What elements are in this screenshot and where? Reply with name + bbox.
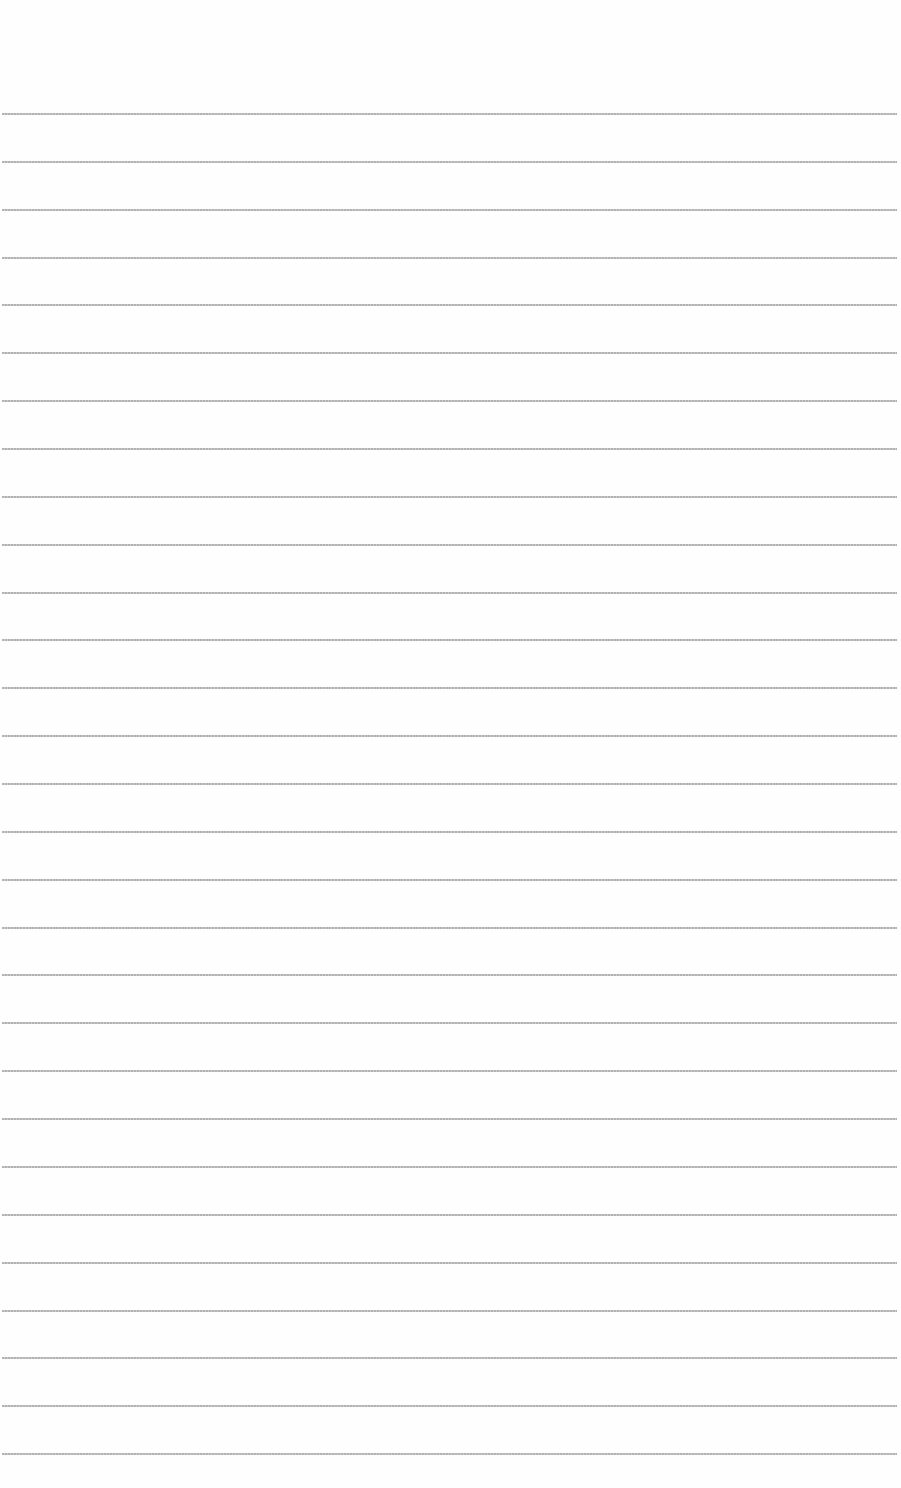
ruled-line	[2, 1214, 897, 1216]
ruled-line	[2, 1262, 897, 1264]
ruled-line	[2, 1453, 897, 1455]
ruled-line	[2, 400, 897, 402]
ruled-line	[2, 161, 897, 163]
ruled-line	[2, 209, 897, 211]
lined-paper-page	[0, 0, 901, 1488]
ruled-line	[2, 735, 897, 737]
ruled-line	[2, 257, 897, 259]
ruled-line	[2, 304, 897, 306]
ruled-line	[2, 1405, 897, 1407]
ruled-line	[2, 639, 897, 641]
ruled-line	[2, 783, 897, 785]
ruled-line	[2, 352, 897, 354]
ruled-line	[2, 544, 897, 546]
ruled-line	[2, 592, 897, 594]
ruled-line	[2, 974, 897, 976]
ruled-line	[2, 1357, 897, 1359]
ruled-line	[2, 879, 897, 881]
ruled-line	[2, 1070, 897, 1072]
ruled-line	[2, 831, 897, 833]
ruled-line	[2, 1310, 897, 1312]
ruled-line	[2, 1022, 897, 1024]
ruled-line	[2, 687, 897, 689]
ruled-line	[2, 448, 897, 450]
ruled-line	[2, 496, 897, 498]
ruled-line	[2, 1166, 897, 1168]
ruled-line	[2, 113, 897, 115]
ruled-line	[2, 1118, 897, 1120]
ruled-line	[2, 927, 897, 929]
